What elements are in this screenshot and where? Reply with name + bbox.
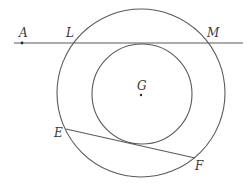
point-A-dot [21,42,24,45]
label-A: A [18,26,28,40]
label-M: M [206,26,220,40]
chord-EF [66,129,195,158]
geometry-diagram: A L M G E F [0,0,252,192]
outer-circle [57,9,225,177]
inner-circle [92,44,192,144]
label-G: G [137,79,147,93]
point-G-dot [140,94,142,96]
label-L: L [65,26,74,40]
label-F: F [194,159,204,173]
label-E: E [53,126,63,140]
